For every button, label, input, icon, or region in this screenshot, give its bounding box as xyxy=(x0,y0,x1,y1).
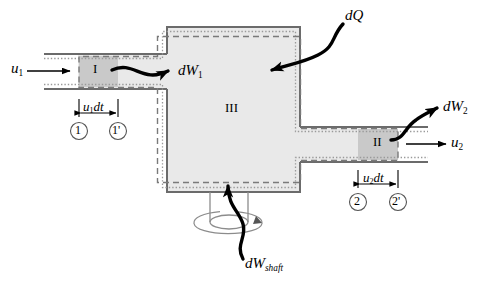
heat-symbol: Q xyxy=(353,7,364,23)
outlet-velocity-label: u2 xyxy=(451,134,463,152)
flow-work-inlet-subscript: 1 xyxy=(198,70,203,80)
flow-work-outlet-label: dW2 xyxy=(443,98,468,116)
inlet-length-suffix: dt xyxy=(94,99,104,114)
region-I-label: I xyxy=(93,61,97,77)
shaft-work-subscript: shaft xyxy=(265,263,283,273)
outlet-length-suffix: dt xyxy=(374,170,384,185)
station-1-prime-label: 1' xyxy=(112,123,120,138)
inlet-velocity-subscript: 1 xyxy=(19,68,24,78)
outlet-length-label: u2dt xyxy=(363,170,384,186)
shaft-work-label: dWshaft xyxy=(245,255,283,273)
shaft-work-arrow xyxy=(228,186,244,259)
inlet-length-label: u1dt xyxy=(83,99,104,115)
flow-work-inlet-label: dW1 xyxy=(178,62,203,80)
chamber-fill-group xyxy=(78,27,398,192)
outlet-velocity-subscript: 2 xyxy=(459,142,464,152)
inlet-velocity-label: u1 xyxy=(11,60,23,78)
diagram-svg xyxy=(0,0,480,285)
flow-work-outlet-subscript: 2 xyxy=(463,106,468,116)
station-2-label: 2 xyxy=(354,194,360,209)
region-II-label: II xyxy=(373,134,382,150)
station-1-label: 1 xyxy=(75,123,81,138)
heat-label: dQ xyxy=(345,7,363,24)
region-III-label: III xyxy=(225,100,238,116)
station-2-prime-label: 2' xyxy=(392,194,400,209)
figure-canvas: u1 u2 I II III dW1 dW2 dQ dWshaft u1dt u… xyxy=(0,0,480,285)
